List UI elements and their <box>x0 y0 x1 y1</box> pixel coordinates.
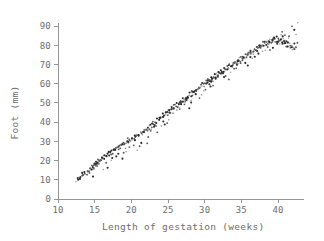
data-point <box>115 155 117 157</box>
data-point <box>247 52 249 54</box>
data-point <box>83 171 85 173</box>
data-point <box>133 144 135 146</box>
data-point <box>283 40 285 42</box>
data-point <box>123 152 125 154</box>
data-point <box>158 119 160 121</box>
data-point <box>230 71 232 73</box>
x-tick-label: 40 <box>272 205 283 215</box>
data-point <box>151 126 153 128</box>
data-point <box>110 159 112 161</box>
data-point <box>280 38 282 40</box>
data-point <box>155 125 157 127</box>
data-point <box>188 107 190 109</box>
data-point <box>269 39 271 41</box>
data-point <box>293 47 295 49</box>
data-point <box>92 176 94 178</box>
data-point <box>98 163 100 165</box>
data-point <box>179 107 181 109</box>
data-point <box>287 42 289 44</box>
data-point <box>162 120 164 122</box>
data-point <box>265 41 267 43</box>
data-point <box>217 75 219 77</box>
data-point <box>223 76 225 78</box>
data-point <box>96 165 98 167</box>
data-point <box>125 148 127 150</box>
data-point <box>101 157 103 159</box>
data-point <box>231 65 233 67</box>
data-point <box>188 95 190 97</box>
data-point <box>288 35 290 37</box>
data-point <box>287 46 289 48</box>
y-axis-title: Foot (mm) <box>9 85 20 139</box>
data-point <box>279 43 281 45</box>
data-point <box>176 109 178 111</box>
data-point <box>277 37 279 39</box>
data-point <box>288 37 290 39</box>
data-point <box>249 54 251 56</box>
data-point <box>167 114 169 116</box>
data-point <box>153 126 155 128</box>
data-point <box>284 34 286 36</box>
data-point <box>93 168 95 170</box>
data-point <box>195 93 197 95</box>
data-point <box>174 104 176 106</box>
data-point <box>119 147 121 149</box>
data-point <box>291 25 293 27</box>
data-point <box>184 101 186 103</box>
data-point <box>289 45 291 47</box>
data-point <box>244 62 246 64</box>
data-point <box>272 38 274 40</box>
data-point <box>131 139 133 141</box>
data-point <box>121 158 123 160</box>
data-point <box>297 22 299 24</box>
data-point <box>166 111 168 113</box>
data-point <box>252 51 254 53</box>
data-point <box>138 134 140 136</box>
scatter-plot-figure: 010203040506070809010152025303540Length … <box>0 0 324 241</box>
y-tick-label: 60 <box>40 79 51 89</box>
data-point <box>139 145 141 147</box>
data-point <box>143 131 145 133</box>
data-point <box>161 125 163 127</box>
data-point <box>162 112 164 114</box>
data-point <box>225 75 227 77</box>
y-tick-label: 90 <box>40 21 51 31</box>
data-point <box>148 128 150 130</box>
data-point <box>102 169 104 171</box>
data-point <box>186 99 188 101</box>
data-point <box>110 154 112 156</box>
data-point <box>190 100 192 102</box>
data-point <box>249 56 251 58</box>
data-point <box>182 101 184 103</box>
data-point <box>183 103 185 105</box>
data-point <box>296 42 298 44</box>
y-tick-label: 70 <box>40 60 51 70</box>
data-point <box>173 112 175 114</box>
data-point <box>281 43 283 45</box>
data-point <box>252 57 254 59</box>
data-point <box>235 67 237 69</box>
data-point <box>274 41 276 43</box>
data-point <box>85 173 87 175</box>
data-point <box>187 97 189 99</box>
data-point <box>240 56 242 58</box>
data-point <box>156 117 158 119</box>
data-point <box>178 103 180 105</box>
data-point <box>156 131 158 133</box>
data-point <box>92 166 94 168</box>
data-point <box>195 90 197 92</box>
data-point <box>128 146 130 148</box>
y-tick-label: 20 <box>40 156 51 166</box>
data-point <box>164 123 166 125</box>
data-point <box>245 53 247 55</box>
data-point <box>205 89 207 91</box>
data-point <box>205 80 207 82</box>
data-point <box>166 122 168 124</box>
data-point <box>183 98 185 100</box>
data-point <box>136 149 138 151</box>
data-point <box>269 49 271 51</box>
data-point <box>200 87 202 89</box>
data-point <box>168 119 170 121</box>
data-point <box>200 84 202 86</box>
data-point <box>223 71 225 73</box>
